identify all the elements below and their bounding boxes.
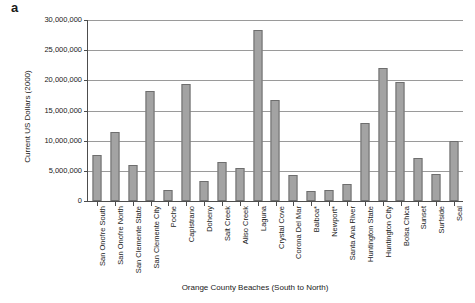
x-category-label: San Clemente City (153, 206, 161, 269)
bar-slot (409, 20, 427, 201)
bar-slot (177, 20, 195, 201)
bar-slot (106, 20, 124, 201)
y-tick-label: 10,000,000 (44, 137, 82, 145)
bar (110, 132, 119, 201)
plot-area: 05,000,00010,000,00015,000,00020,000,000… (87, 20, 463, 202)
bar-slot (231, 20, 249, 201)
x-category-label: Newport* (331, 206, 339, 237)
bar (128, 165, 137, 201)
bar-slot (267, 20, 285, 201)
x-axis-title: Orange County Beaches (South to North) (45, 283, 465, 292)
x-category-label: Laguna (260, 206, 268, 231)
bar (200, 181, 209, 202)
y-tick-label: 0 (78, 197, 82, 205)
bar (378, 68, 387, 201)
bar-slot (338, 20, 356, 201)
x-category-label: Crystal Cove (278, 206, 286, 249)
bar (342, 184, 351, 201)
x-axis-category-labels: San Onofre SouthSan Onofre NorthSan Clem… (87, 206, 462, 282)
x-category-label: Huntington City (385, 206, 393, 257)
bar (217, 162, 226, 201)
bar-slot (159, 20, 177, 201)
bar (253, 30, 262, 201)
x-category-label: Surfside (438, 206, 446, 234)
bar-slot (142, 20, 160, 201)
x-category-label: Salt Creek (224, 206, 232, 241)
x-category-label: Capistrano (188, 206, 196, 242)
bar-slot (284, 20, 302, 201)
bar (307, 191, 316, 201)
x-category-label: Sunset (420, 206, 428, 229)
bar (414, 158, 423, 201)
bar-slot (320, 20, 338, 201)
x-category-label: San Onofre North (117, 206, 125, 265)
bar (164, 190, 173, 201)
y-tick-label: 25,000,000 (44, 46, 82, 54)
x-category-label: Bolsa Chica (403, 206, 411, 246)
bar-slot (374, 20, 392, 201)
bar (92, 155, 101, 201)
bar (360, 123, 369, 201)
y-tick-label: 5,000,000 (49, 167, 82, 175)
y-tick-label: 15,000,000 (44, 107, 82, 115)
x-category-label: San Clemente State (135, 206, 143, 273)
bar (325, 190, 334, 201)
bar-slot (302, 20, 320, 201)
bar (450, 141, 459, 201)
panel-letter: a (11, 1, 18, 15)
bar-slot (195, 20, 213, 201)
bar-slot (392, 20, 410, 201)
y-tick-label: 30,000,000 (44, 16, 82, 24)
bar-series (88, 20, 463, 201)
bar-slot (356, 20, 374, 201)
bar-slot (427, 20, 445, 201)
bar-slot (445, 20, 463, 201)
bar-slot (213, 20, 231, 201)
bar (432, 174, 441, 201)
x-category-label: Santa Ana River (349, 206, 357, 260)
bar (182, 84, 191, 201)
x-category-label: Seal (456, 206, 464, 221)
x-category-label: Corona Del Mar (295, 206, 303, 259)
bar (235, 168, 244, 201)
bar-slot (124, 20, 142, 201)
y-tick-mark (84, 201, 88, 202)
x-category-label: San Onofre South (99, 206, 107, 266)
x-category-label: Poche (170, 206, 178, 227)
x-category-label: Aliso Creek (242, 206, 250, 244)
bar (271, 100, 280, 201)
x-category-label: Doheny (206, 206, 214, 232)
x-category-label: Huntington State (367, 206, 375, 262)
figure-panel-a: a Current US Dollars (2000) 05,000,00010… (0, 0, 475, 303)
y-axis-title: Current US Dollars (2000) (23, 29, 32, 204)
x-category-label: Balboa* (313, 206, 321, 232)
bar-slot (249, 20, 267, 201)
bar (396, 82, 405, 201)
bar-slot (88, 20, 106, 201)
bar (289, 175, 298, 201)
bar (146, 91, 155, 201)
y-tick-label: 20,000,000 (44, 76, 82, 84)
